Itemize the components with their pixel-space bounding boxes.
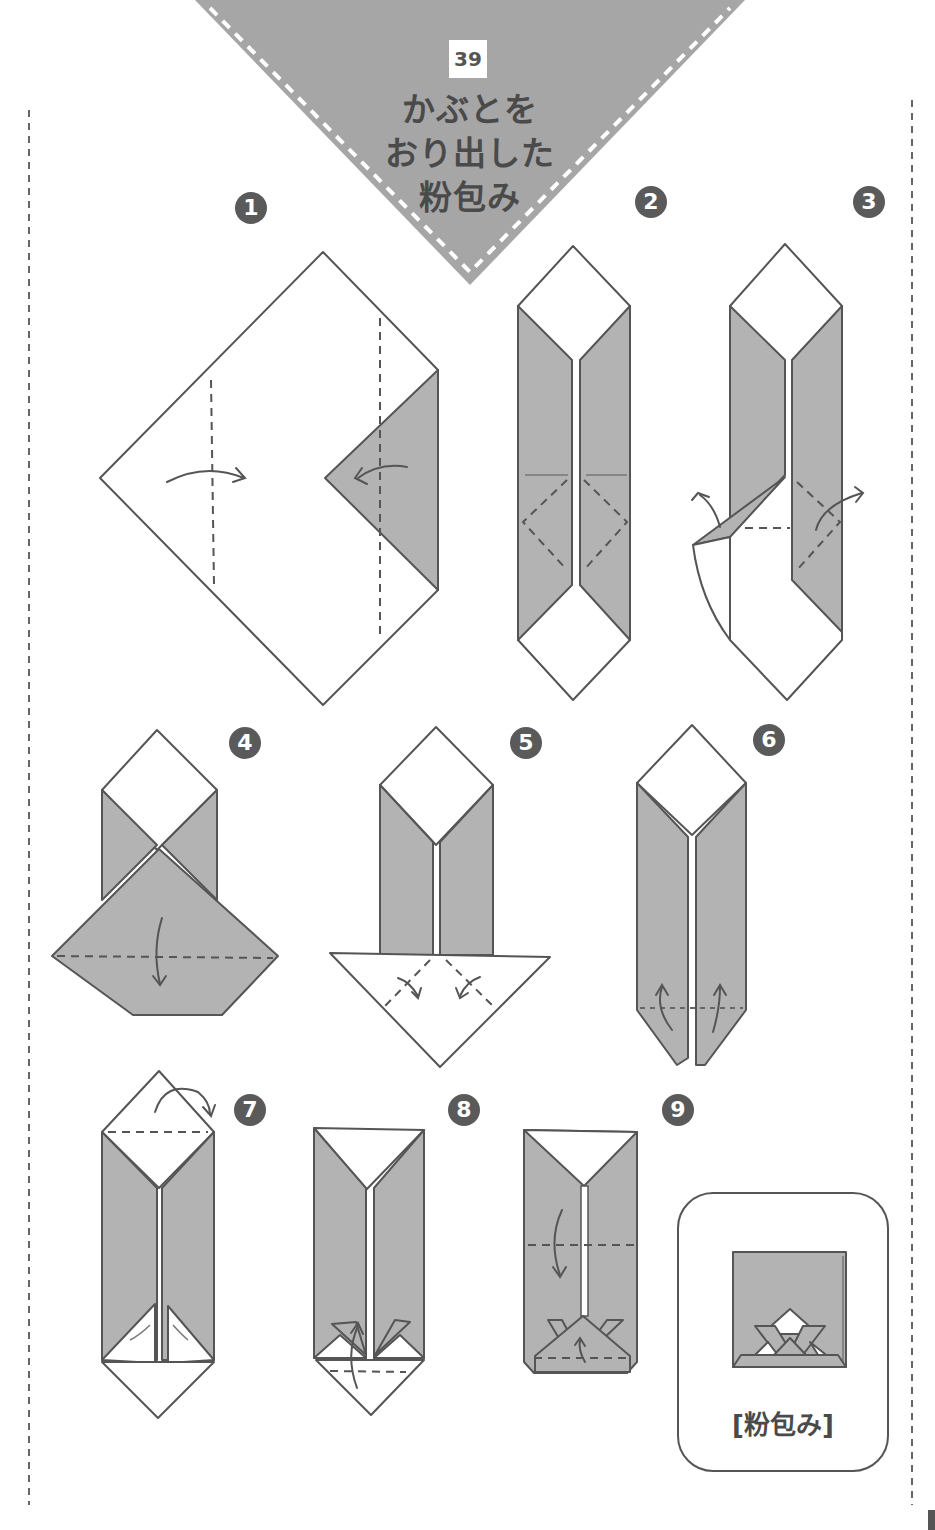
step-3-diagram	[692, 244, 863, 700]
step-7-diagram	[102, 1071, 215, 1418]
step-2-diagram	[518, 246, 630, 700]
result-frame: [粉包み]	[677, 1192, 889, 1472]
step-2-badge: 2	[635, 186, 667, 218]
step-8-diagram	[314, 1128, 424, 1415]
step-9-diagram	[524, 1130, 637, 1373]
step-1-badge: 1	[235, 192, 267, 224]
page-title: かぶとを おり出した 粉包み	[330, 88, 610, 220]
step-3-badge: 3	[853, 186, 885, 218]
step-5-badge: 5	[510, 727, 542, 759]
title-line-3: 粉包み	[330, 176, 610, 220]
step-4-badge: 4	[229, 727, 261, 759]
step-5-diagram	[330, 727, 550, 1067]
step-7-badge: 7	[234, 1094, 266, 1126]
step-6-badge: 6	[753, 724, 785, 756]
result-label: [粉包み]	[679, 1404, 887, 1441]
title-line-2: おり出した	[330, 132, 610, 176]
page-number: 39	[449, 40, 487, 78]
title-line-1: かぶとを	[330, 88, 610, 132]
step-6-diagram	[637, 725, 746, 1065]
step-9-badge: 9	[662, 1094, 694, 1126]
step-8-badge: 8	[448, 1094, 480, 1126]
step-4-diagram	[52, 730, 278, 1015]
origami-instruction-page: .o { stroke:#555; stroke-width:2; fill:#…	[0, 0, 935, 1530]
page-corner-mark	[928, 1510, 935, 1530]
step-1-diagram	[100, 252, 438, 705]
